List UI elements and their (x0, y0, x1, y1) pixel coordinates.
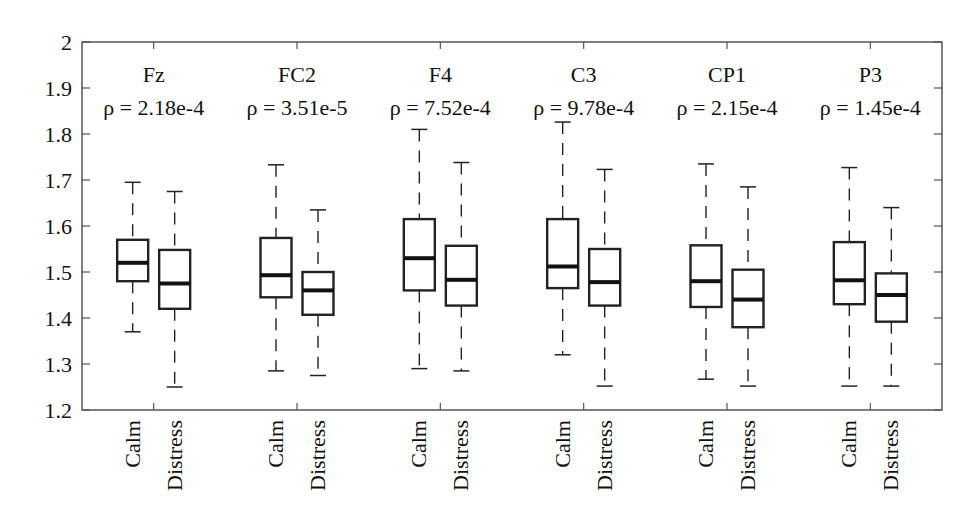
channel-label-f4: F4 (429, 62, 452, 87)
p-value-label: ρ = 9.78e-4 (533, 95, 634, 120)
axes-box (82, 42, 942, 410)
box-c3-distress (589, 169, 620, 386)
x-tick-label-distress: Distress (878, 420, 903, 491)
box-f4-calm (404, 129, 435, 368)
x-tick-label-distress: Distress (162, 420, 187, 491)
p-value-label: ρ = 2.18e-4 (103, 95, 204, 120)
p-value-label: ρ = 3.51e-5 (247, 95, 348, 120)
y-tick-label: 1.7 (45, 168, 73, 193)
iqr-box (404, 219, 435, 290)
x-tick-label-distress: Distress (305, 420, 330, 491)
x-axis: CalmDistressCalmDistressCalmDistressCalm… (120, 42, 904, 491)
box-p3-distress (876, 208, 907, 386)
iqr-box (589, 249, 620, 306)
channel-label-fz: Fz (143, 62, 165, 87)
box-cp1-calm (691, 164, 722, 379)
iqr-box (261, 238, 292, 297)
x-tick-label-calm: Calm (263, 420, 288, 468)
p-value-label: ρ = 2.15e-4 (677, 95, 778, 120)
channel-labels: Fzρ = 2.18e-4FC2ρ = 3.51e-5F4ρ = 7.52e-4… (103, 62, 921, 120)
channel-label-p3: P3 (859, 62, 882, 87)
box-fc2-distress (303, 210, 334, 376)
box-fz-distress (159, 192, 190, 388)
y-axis: 1.21.31.41.51.61.71.81.92 (45, 30, 943, 423)
iqr-box (876, 273, 907, 321)
x-tick-label-distress: Distress (592, 420, 617, 491)
box-p3-calm (834, 168, 865, 386)
iqr-box (446, 246, 477, 306)
y-tick-label: 1.9 (45, 76, 73, 101)
channel-label-c3: C3 (571, 62, 597, 87)
x-tick-label-calm: Calm (693, 420, 718, 468)
iqr-box (159, 250, 190, 309)
y-tick-label: 1.5 (45, 260, 73, 285)
boxplot-chart: 1.21.31.41.51.61.71.81.92 CalmDistressCa… (0, 0, 977, 532)
boxes (117, 122, 907, 387)
x-tick-label-calm: Calm (550, 420, 575, 468)
x-tick-label-calm: Calm (120, 420, 145, 468)
y-tick-label: 1.3 (45, 352, 73, 377)
y-tick-label: 2 (61, 30, 72, 55)
box-c3-calm (547, 122, 578, 355)
channel-label-fc2: FC2 (278, 62, 316, 87)
iqr-box (834, 242, 865, 304)
iqr-box (547, 219, 578, 288)
x-tick-label-distress: Distress (448, 420, 473, 491)
y-tick-label: 1.8 (45, 122, 73, 147)
box-f4-distress (446, 163, 477, 371)
box-cp1-distress (733, 187, 764, 386)
box-fz-calm (117, 182, 148, 331)
x-tick-label-calm: Calm (836, 420, 861, 468)
iqr-box (691, 245, 722, 307)
plot-frame (82, 42, 942, 410)
x-tick-label-distress: Distress (735, 420, 760, 491)
y-tick-label: 1.6 (45, 214, 73, 239)
iqr-box (303, 272, 334, 315)
iqr-box (117, 240, 148, 281)
x-tick-label-calm: Calm (406, 420, 431, 468)
p-value-label: ρ = 7.52e-4 (390, 95, 491, 120)
channel-label-cp1: CP1 (708, 62, 746, 87)
y-tick-label: 1.2 (45, 398, 73, 423)
box-fc2-calm (261, 165, 292, 371)
p-value-label: ρ = 1.45e-4 (820, 95, 921, 120)
y-tick-label: 1.4 (45, 306, 73, 331)
